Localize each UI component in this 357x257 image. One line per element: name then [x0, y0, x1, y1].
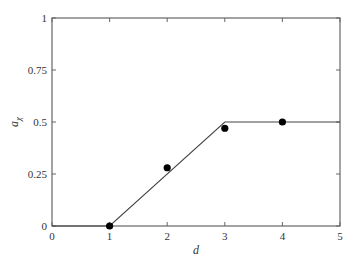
x-tick-label: 5 — [337, 230, 343, 242]
data-point — [106, 222, 113, 229]
observed-points — [106, 118, 286, 229]
y-axis-label: aχ — [7, 116, 23, 127]
data-point — [221, 125, 228, 132]
y-tick-label: 1 — [42, 12, 48, 24]
x-axis-label: d — [193, 243, 200, 257]
data-point — [279, 118, 286, 125]
y-tick-label: 0.25 — [28, 168, 48, 180]
x-tick-label: 2 — [164, 230, 170, 242]
model-line — [52, 122, 340, 226]
x-tick-label: 0 — [49, 230, 55, 242]
y-tick-labels: 00.250.50.751 — [28, 12, 48, 232]
y-tick-label: 0.75 — [28, 64, 48, 76]
y-tick-label: 0 — [42, 220, 48, 232]
x-tick-label: 3 — [222, 230, 228, 242]
y-tick-label: 0.5 — [33, 116, 47, 128]
x-tick-label: 1 — [107, 230, 113, 242]
data-point — [164, 164, 171, 171]
chart: 012345 00.250.50.751 d aχ — [0, 0, 357, 257]
x-tick-labels: 012345 — [49, 230, 343, 242]
x-tick-label: 4 — [280, 230, 286, 242]
